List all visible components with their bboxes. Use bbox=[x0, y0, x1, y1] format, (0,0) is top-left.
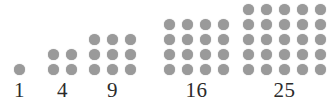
dot bbox=[279, 4, 290, 15]
dot bbox=[164, 34, 175, 45]
dot bbox=[200, 64, 211, 75]
dot bbox=[200, 49, 211, 60]
dot bbox=[261, 4, 272, 15]
dot-row bbox=[164, 49, 229, 60]
dot bbox=[125, 64, 136, 75]
dot-row bbox=[164, 64, 229, 75]
dot bbox=[218, 49, 229, 60]
dot-group: 25 bbox=[243, 4, 326, 102]
dot bbox=[243, 4, 254, 15]
dot bbox=[200, 34, 211, 45]
dot-grid bbox=[89, 34, 136, 75]
dot bbox=[261, 49, 272, 60]
dot bbox=[279, 34, 290, 45]
dot bbox=[89, 34, 100, 45]
dot-grid bbox=[164, 19, 229, 75]
dot bbox=[243, 49, 254, 60]
dot-group: 4 bbox=[48, 49, 77, 102]
dot bbox=[182, 64, 193, 75]
dot-group: 9 bbox=[89, 34, 136, 102]
dot bbox=[315, 4, 326, 15]
dot-row bbox=[243, 49, 326, 60]
dot-row bbox=[243, 64, 326, 75]
dot-grid bbox=[48, 49, 77, 75]
dot bbox=[297, 34, 308, 45]
dot-row bbox=[243, 34, 326, 45]
dot bbox=[297, 19, 308, 30]
dot bbox=[279, 19, 290, 30]
group-label: 4 bbox=[57, 78, 68, 102]
group-label: 16 bbox=[186, 78, 208, 102]
dot-row bbox=[89, 64, 136, 75]
group-label: 25 bbox=[274, 78, 296, 102]
dot bbox=[218, 64, 229, 75]
dot bbox=[200, 19, 211, 30]
dot-row bbox=[89, 34, 136, 45]
dot-group: 1 bbox=[14, 64, 25, 102]
dot-row bbox=[14, 64, 25, 75]
dot-row bbox=[164, 19, 229, 30]
dot bbox=[107, 49, 118, 60]
dot bbox=[182, 34, 193, 45]
dot-row bbox=[243, 4, 326, 15]
square-numbers-figure: 1491625 bbox=[0, 0, 336, 102]
dot-row bbox=[89, 49, 136, 60]
dot bbox=[14, 64, 25, 75]
dot bbox=[297, 64, 308, 75]
dot bbox=[107, 64, 118, 75]
dot bbox=[125, 49, 136, 60]
dot bbox=[66, 49, 77, 60]
dot-row bbox=[48, 49, 77, 60]
dot bbox=[261, 34, 272, 45]
dot bbox=[297, 4, 308, 15]
dot bbox=[66, 64, 77, 75]
dot bbox=[218, 34, 229, 45]
dot bbox=[164, 19, 175, 30]
dot bbox=[315, 64, 326, 75]
dot-group: 16 bbox=[164, 19, 229, 102]
group-label: 1 bbox=[14, 78, 25, 102]
dot bbox=[182, 19, 193, 30]
dot bbox=[164, 49, 175, 60]
dot bbox=[164, 64, 175, 75]
dot bbox=[243, 64, 254, 75]
dot bbox=[315, 19, 326, 30]
dot-grid bbox=[243, 4, 326, 75]
dot-row bbox=[48, 64, 77, 75]
dot bbox=[218, 19, 229, 30]
dot bbox=[243, 19, 254, 30]
dot bbox=[261, 64, 272, 75]
dot bbox=[297, 49, 308, 60]
dot bbox=[279, 64, 290, 75]
dot bbox=[48, 49, 59, 60]
group-label: 9 bbox=[107, 78, 118, 102]
dot bbox=[125, 34, 136, 45]
dot bbox=[261, 19, 272, 30]
dot bbox=[182, 49, 193, 60]
dot-grid bbox=[14, 64, 25, 75]
dot bbox=[48, 64, 59, 75]
dot-row bbox=[243, 19, 326, 30]
dot bbox=[89, 49, 100, 60]
dot bbox=[89, 64, 100, 75]
dot bbox=[243, 34, 254, 45]
dot-row bbox=[164, 34, 229, 45]
dot bbox=[315, 34, 326, 45]
dot bbox=[279, 49, 290, 60]
dot bbox=[107, 34, 118, 45]
dot bbox=[315, 49, 326, 60]
